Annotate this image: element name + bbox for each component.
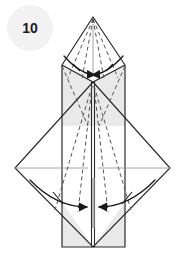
tick-mark-lower-right [122, 192, 132, 204]
center-crease-shadow [92, 178, 95, 228]
origami-diagram-canvas: 10 [0, 0, 186, 259]
tick-mark-upper-left [73, 64, 80, 71]
origami-diagram-root: 10 [0, 0, 186, 259]
lower-left-shaded-panel [62, 202, 93, 247]
tick-mark-upper-right [106, 64, 113, 71]
step-badge: 10 [7, 5, 53, 51]
top-apex-outline [62, 17, 125, 65]
fold-line-upper-1 [68, 19, 93, 78]
step-badge-number: 10 [22, 20, 38, 36]
lower-right-fold-arrow [99, 180, 155, 207]
lower-left-fold-arrow [30, 180, 87, 207]
fold-line-upper-2 [82, 19, 93, 79]
fold-line-upper-3 [93, 19, 104, 79]
lower-right-shaded-panel [93, 202, 125, 247]
